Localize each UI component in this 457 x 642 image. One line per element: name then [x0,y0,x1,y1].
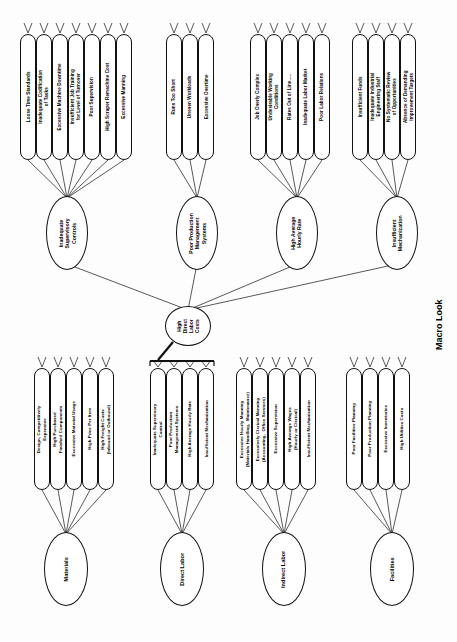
diagram-canvas: Loose Time StandardsInadequate Codificat… [0,0,457,642]
macro-leaf-label: Uneven Workloads [187,76,193,119]
macro-leaf[interactable]: Excessive Machine Downtime [52,34,68,160]
macro-leaf[interactable]: Inadequate Codification of Tasks [36,34,52,160]
micro-leaf[interactable]: Poor Production Planning [362,368,378,490]
macro-leaf-label: Inadequate Industrial Engineering Staff [370,73,381,121]
macro-leaf[interactable]: Uneven Workloads [182,34,198,160]
macro-leaf-label: Poor Labor Relations [319,73,325,121]
macro-leaf-label: No Systematic Review of Opportunities [386,72,397,122]
macro-leaf[interactable]: High Scraper Remachine Cost [100,34,116,160]
micro-cat-materials[interactable]: Materials [44,532,88,606]
macro-leaf-label: Inadequate Labor Market [303,69,309,125]
core-node-high-direct-labor-costs[interactable]: High Direct Labor Costs [165,306,211,346]
micro-leaf[interactable]: Poor Facilities Planning [346,368,362,490]
macro-leaf[interactable]: Poor Supervision [84,34,100,160]
micro-leaf-label: Excessive Inventories [383,405,389,453]
macro-leaf-label: Runs Too Short [171,79,177,114]
macro-leaf[interactable]: Job Overly Complex [250,34,266,160]
macro-mid-high-average-hourly-rate[interactable]: High Average Hourly Rate [276,196,318,270]
macro-leaf-label: Insufficient Funds [357,76,363,117]
micro-leaf[interactable]: High Average Wages (Hourly or Clerical) [284,368,300,490]
macro-leaf[interactable]: Excessive Overtime [198,34,214,160]
micro-leaf-label: Insufficient Mechanization [305,401,311,458]
macro-mid-insufficient-mechanization-label: Insufficient Mechanization [391,215,404,251]
micro-leaf[interactable]: Poor Production Management Systems [166,368,182,490]
macro-leaf[interactable]: Poor Labor Relations [314,34,330,160]
micro-leaf-label: High Freight Costs (Inbound or Outbound) [101,404,112,454]
micro-leaf[interactable]: Excessive Hourly Manning (Materials Hand… [236,368,252,490]
macro-leaf-label: Insufficient Job Training for Level of T… [70,69,81,124]
macro-look-caption: Macro Look [434,299,444,350]
macro-leaf-label: Absence of Demanding Improvement Targets [402,71,413,124]
macro-leaf[interactable]: No Systematic Review of Opportunities [384,34,400,160]
macro-leaf-label: Excessive Manning [121,75,127,119]
macro-leaf-label: Loose Time Standards [25,72,31,123]
macro-leaf[interactable]: Absence of Demanding Improvement Targets [400,34,416,160]
micro-leaf[interactable]: High Utilities Costs [394,368,410,490]
micro-leaf-label: Inadequate Supervisory Control [153,403,164,455]
macro-leaf-label: Poor Supervision [89,77,95,116]
macro-leaf-label: High Scraper Remachine Cost [105,63,111,131]
micro-cat-materials-label: Materials [63,557,70,581]
micro-leaf[interactable]: Excessive Supervision [268,368,284,490]
micro-leaf-label: Excessively Clerical Manning (Accounting… [255,397,266,462]
macro-mid-poor-production-management-systems[interactable]: Poor Production Management Systems [176,196,218,270]
micro-leaf-label: Poor Production Management Systems [169,405,180,453]
micro-cat-indirect-labor-label: Indirect Labor [281,550,288,587]
macro-mid-high-average-hourly-rate-label: High Average Hourly Rate [291,216,304,249]
macro-leaf[interactable]: Insufficient Job Training for Level of T… [68,34,84,160]
micro-leaf[interactable]: Excessively Clerical Manning (Accounting… [252,368,268,490]
micro-leaf-label: High Average Hourly Rate [187,401,193,457]
micro-cat-direct-labor[interactable]: Direct Labor [160,532,204,606]
micro-leaf[interactable]: High Purchased Finished Components [50,368,66,490]
micro-cat-direct-labor-label: Direct Labor [179,553,186,586]
micro-leaf[interactable]: Insufficient Mechanization [300,368,316,490]
micro-leaf[interactable]: Excessive Inventories [378,368,394,490]
micro-leaf[interactable]: High Freight Costs (Inbound or Outbound) [98,368,114,490]
macro-leaf[interactable]: Inadequate Industrial Engineering Staff [368,34,384,160]
macro-leaf-label: Excessive Machine Downtime [57,63,63,130]
core-node-high-direct-labor-costs-label: High Direct Labor Costs [176,319,200,333]
micro-leaf[interactable]: Inadequate Supervisory Control [150,368,166,490]
macro-mid-inadequate-supervisory-controls[interactable]: Inadequate Supervisory Controls [46,196,88,270]
macro-leaf[interactable]: Undesirable Working Conditions [266,34,282,160]
micro-leaf-label: High Price Per Item [87,408,93,450]
macro-leaf[interactable]: Rates Out of Line..... [282,34,298,160]
micro-leaf-label: Poor Facilities Planning [351,403,357,455]
micro-leaf[interactable]: Excessive Material Usage [66,368,82,490]
micro-cat-facilities[interactable]: Facilities [370,532,414,606]
micro-leaf-label: Excessive Hourly Manning (Materials Hand… [239,392,250,467]
micro-leaf-label: Poor Production Planning [367,401,373,457]
micro-cat-indirect-labor[interactable]: Indirect Labor [262,532,306,606]
micro-leaf-label: High Utilities Costs [399,408,405,450]
macro-leaf[interactable]: Loose Time Standards [20,34,36,160]
micro-leaf[interactable]: High Average Hourly Rate [182,368,198,490]
micro-leaf-label: Insufficient Mechanization [203,401,209,458]
macro-mid-poor-production-management-systems-label: Poor Production Management Systems [188,213,207,254]
macro-leaf-label: Excessive Overtime [203,75,209,120]
micro-leaf-label: Excessive Material Usage [71,401,77,456]
macro-mid-insufficient-mechanization[interactable]: Insufficient Mechanization [376,196,418,270]
macro-leaf[interactable]: Insufficient Funds [352,34,368,160]
micro-leaf-label: Excessive Supervision [273,404,279,453]
macro-leaf[interactable]: Inadequate Labor Market [298,34,314,160]
macro-leaf-label: Rates Out of Line..... [287,74,293,120]
micro-leaf-label: High Purchased Finished Components [53,405,64,453]
micro-leaf[interactable]: Insufficient Mechanization [198,368,214,490]
micro-leaf[interactable]: High Price Per Item [82,368,98,490]
micro-leaf-label: High Average Wages (Hourly or Clerical) [287,407,298,452]
micro-cat-facilities-label: Facilities [389,557,396,581]
micro-leaf[interactable]: Design, Competitively Expensive [34,368,50,490]
macro-leaf-label: Undesirable Working Conditions [268,73,279,120]
micro-leaf-label: Design, Competitively Expensive [37,405,48,453]
macro-leaf[interactable]: Runs Too Short [166,34,182,160]
macro-leaf-label: Job Overly Complex [255,74,261,120]
macro-mid-inadequate-supervisory-controls-label: Inadequate Supervisory Controls [58,218,77,248]
macro-leaf-label: Inadequate Codification of Tasks [38,70,49,124]
macro-leaf[interactable]: Excessive Manning [116,34,132,160]
